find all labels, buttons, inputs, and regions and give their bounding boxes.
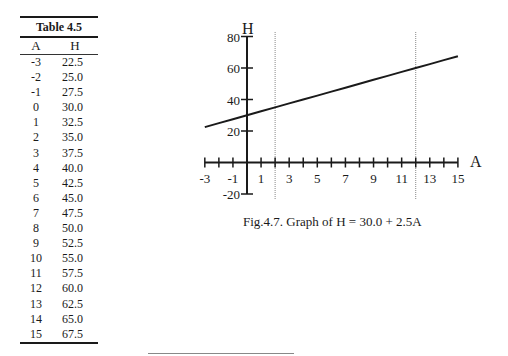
x-axis-label: A — [470, 153, 482, 170]
y-tick-label: -20 — [223, 187, 240, 202]
tick-labels: -3-11357911131580604020-20 — [199, 30, 464, 203]
axes — [205, 37, 458, 195]
y-tick-label: 20 — [227, 124, 240, 139]
x-tick-label: 1 — [258, 171, 265, 186]
x-tick-label: 7 — [342, 171, 349, 186]
y-tick-label: 80 — [227, 30, 240, 45]
x-tick-label: 11 — [395, 171, 408, 186]
x-tick-label: 15 — [451, 171, 464, 186]
figure-caption: Fig.4.7. Graph of H = 30.0 + 2.5A — [243, 214, 422, 230]
x-tick-label: 13 — [423, 171, 436, 186]
y-tick-label: 60 — [227, 61, 240, 76]
x-tick-label: -1 — [228, 171, 239, 186]
x-tick-label: 5 — [314, 171, 321, 186]
x-tick-label: 9 — [370, 171, 377, 186]
y-axis-label: H — [242, 20, 254, 37]
chart: -3-11357911131580604020-20 H A — [0, 0, 508, 356]
y-tick-label: 40 — [227, 93, 240, 108]
axis-ticks — [205, 37, 458, 195]
data-line — [205, 56, 458, 127]
footer-rule — [148, 353, 294, 354]
x-tick-label: -3 — [199, 171, 210, 186]
x-tick-label: 3 — [286, 171, 293, 186]
